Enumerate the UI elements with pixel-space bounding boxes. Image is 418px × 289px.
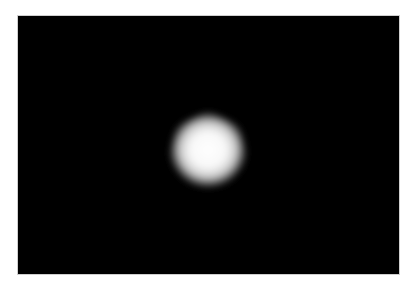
light-source-glow [18, 16, 399, 274]
black-panel [18, 16, 399, 274]
heptagon-glow [167, 110, 249, 190]
image-canvas [0, 0, 418, 289]
